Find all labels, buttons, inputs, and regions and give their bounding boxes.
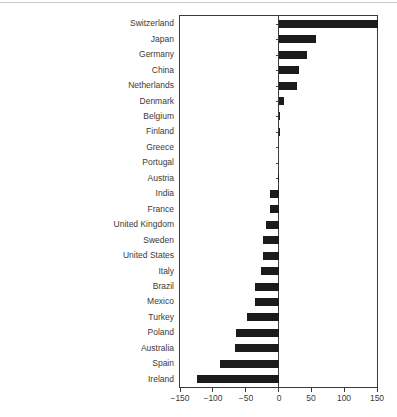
- x-tick--50: [245, 388, 246, 392]
- y-tick-denmark: [276, 101, 278, 102]
- y-label-united-kingdom: United Kingdom: [114, 219, 174, 230]
- x-tick-label-0: 0: [262, 393, 296, 404]
- y-tick-belgium: [276, 116, 278, 117]
- bar-france: [270, 205, 279, 213]
- x-tick-150: [377, 388, 378, 392]
- bar-germany: [279, 51, 307, 59]
- bar-japan: [279, 35, 316, 43]
- y-label-ireland: Ireland: [148, 374, 174, 385]
- x-tick-label-50: 50: [294, 393, 328, 404]
- y-label-turkey: Turkey: [148, 312, 174, 323]
- bar-chart-figure: SwitzerlandJapanGermanyChinaNetherlandsD…: [0, 0, 397, 417]
- y-tick-netherlands: [276, 86, 278, 87]
- bar-poland: [236, 329, 279, 337]
- y-label-switzerland: Switzerland: [130, 18, 174, 29]
- y-label-finland: Finland: [146, 126, 174, 137]
- top-divider-line: [0, 2, 397, 3]
- y-tick-portugal: [276, 163, 278, 164]
- x-tick-50: [311, 388, 312, 392]
- bar-australia: [235, 344, 279, 352]
- bar-sweden: [263, 236, 279, 244]
- y-tick-finland: [276, 132, 278, 133]
- bar-turkey: [247, 313, 279, 321]
- y-label-spain: Spain: [152, 358, 174, 369]
- y-tick-switzerland: [276, 24, 278, 25]
- x-tick-label-100: 100: [327, 393, 361, 404]
- bar-austria: [278, 174, 279, 182]
- y-label-belgium: Belgium: [143, 111, 174, 122]
- bar-india: [270, 190, 279, 198]
- y-tick-japan: [276, 39, 278, 40]
- y-label-austria: Austria: [148, 173, 174, 184]
- y-label-germany: Germany: [139, 49, 174, 60]
- y-label-sweden: Sweden: [143, 235, 174, 246]
- x-tick-label--50: −50: [229, 393, 263, 404]
- y-label-japan: Japan: [151, 34, 174, 45]
- y-tick-china: [276, 70, 278, 71]
- bar-ireland: [197, 375, 279, 383]
- y-label-italy: Italy: [158, 266, 174, 277]
- y-label-brazil: Brazil: [153, 281, 174, 292]
- bar-united-states: [263, 252, 279, 260]
- bar-mexico: [255, 298, 279, 306]
- y-tick-greece: [276, 147, 278, 148]
- y-label-netherlands: Netherlands: [128, 80, 174, 91]
- x-tick--100: [212, 388, 213, 392]
- y-label-france: France: [148, 204, 174, 215]
- y-label-poland: Poland: [148, 327, 174, 338]
- y-label-portugal: Portugal: [142, 157, 174, 168]
- bar-finland: [279, 128, 280, 136]
- y-label-greece: Greece: [146, 142, 174, 153]
- y-label-united-states: United States: [123, 250, 174, 261]
- bar-spain: [220, 360, 279, 368]
- bar-denmark: [279, 97, 284, 105]
- bar-united-kingdom: [266, 221, 279, 229]
- y-label-china: China: [152, 65, 174, 76]
- y-label-denmark: Denmark: [140, 96, 174, 107]
- y-label-mexico: Mexico: [147, 296, 174, 307]
- bar-china: [279, 66, 299, 74]
- bar-switzerland: [279, 20, 378, 28]
- y-label-australia: Australia: [141, 343, 174, 354]
- bar-netherlands: [279, 82, 297, 90]
- x-tick-0: [278, 388, 279, 392]
- x-tick-label-150: 150: [360, 393, 394, 404]
- bar-brazil: [255, 283, 279, 291]
- y-label-india: India: [156, 188, 174, 199]
- bar-italy: [261, 267, 279, 275]
- bar-belgium: [279, 112, 280, 120]
- x-tick-100: [344, 388, 345, 392]
- plot-inner: [180, 16, 377, 387]
- x-tick-label--100: −100: [196, 393, 230, 404]
- y-tick-germany: [276, 55, 278, 56]
- x-tick--150: [180, 388, 181, 392]
- x-tick-label--150: −150: [163, 393, 197, 404]
- plot-area: [179, 15, 378, 388]
